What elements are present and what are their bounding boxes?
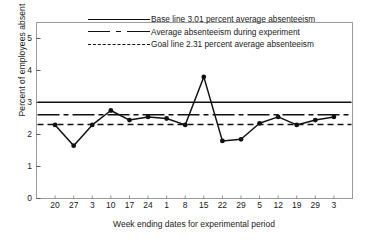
x-tick-label: 3 bbox=[323, 200, 345, 210]
y-axis-ticks bbox=[37, 39, 41, 199]
data-point bbox=[164, 116, 169, 121]
data-point bbox=[276, 115, 281, 120]
x-axis-tick-labels: 202731017241815222951219293 bbox=[0, 200, 366, 214]
legend-item: Goal line 2.31 percent average absenteei… bbox=[88, 38, 338, 51]
data-line bbox=[55, 77, 334, 146]
y-tick-label: 4 bbox=[16, 65, 32, 75]
data-markers bbox=[53, 75, 337, 149]
data-point bbox=[71, 143, 76, 148]
data-point bbox=[90, 123, 95, 128]
data-point bbox=[146, 115, 151, 120]
data-point bbox=[53, 123, 58, 128]
data-point bbox=[127, 118, 132, 123]
legend-swatch-dash-dot bbox=[88, 26, 150, 37]
legend-label: Base line 3.01 percent average absenteei… bbox=[151, 14, 315, 24]
legend-swatch-dashed bbox=[88, 39, 150, 50]
legend-label: Average absenteeism during experiment bbox=[151, 27, 300, 37]
chart-figure: Percent of employees absent 012345 20273… bbox=[0, 0, 366, 240]
data-point bbox=[239, 137, 244, 142]
data-point bbox=[220, 139, 225, 144]
legend-label: Goal line 2.31 percent average absenteei… bbox=[151, 39, 314, 49]
data-point bbox=[183, 123, 188, 128]
chart-legend: Base line 3.01 percent average absenteei… bbox=[88, 13, 338, 51]
legend-item: Base line 3.01 percent average absenteei… bbox=[88, 13, 338, 26]
y-tick-label: 2 bbox=[16, 129, 32, 139]
data-point bbox=[108, 108, 113, 113]
data-point bbox=[257, 121, 262, 126]
y-tick-label: 1 bbox=[16, 161, 32, 171]
data-point bbox=[313, 118, 318, 123]
y-tick-label: 3 bbox=[16, 97, 32, 107]
x-axis-title: Week ending dates for experimental perio… bbox=[36, 219, 352, 229]
legend-swatch-solid bbox=[88, 14, 150, 25]
data-point bbox=[294, 123, 299, 128]
reference-lines bbox=[38, 102, 352, 124]
data-point bbox=[332, 115, 337, 120]
y-tick-label: 5 bbox=[16, 33, 32, 43]
data-point bbox=[201, 75, 206, 80]
legend-item: Average absenteeism during experiment bbox=[88, 26, 338, 39]
